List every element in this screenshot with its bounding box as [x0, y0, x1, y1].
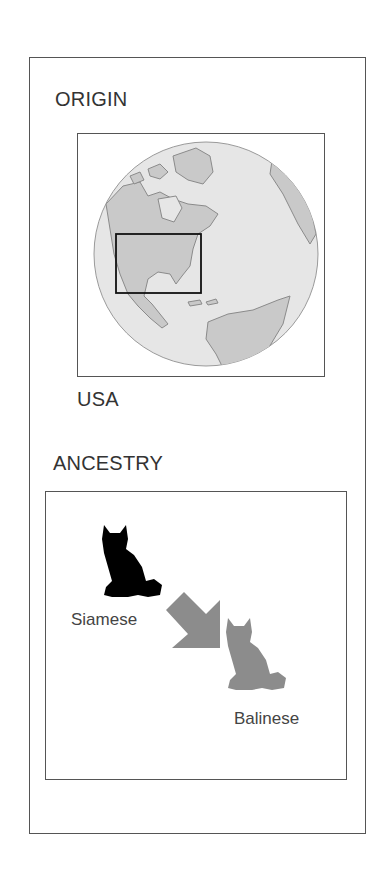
origin-heading: ORIGIN — [55, 88, 127, 111]
globe-icon — [78, 134, 326, 378]
origin-map-frame — [77, 133, 325, 377]
siamese-cat-icon — [98, 523, 164, 599]
balinese-cat-icon — [222, 616, 288, 692]
descent-arrow-icon — [166, 592, 226, 650]
siamese-label: Siamese — [71, 610, 137, 630]
balinese-label: Balinese — [234, 709, 299, 729]
ancestry-diagram-frame: Siamese Balinese — [45, 491, 347, 780]
origin-country-label: USA — [77, 388, 119, 411]
ancestry-heading: ANCESTRY — [53, 452, 163, 475]
